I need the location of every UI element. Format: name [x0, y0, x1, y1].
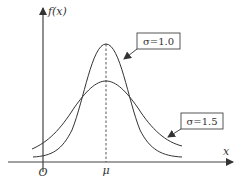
label-sigma-1-0: σ=1.0	[143, 36, 174, 47]
normal-distribution-diagram: σ=1.0 σ=1.5 f(x) μ O x	[0, 0, 240, 183]
label-sigma-1-5: σ=1.5	[186, 116, 217, 127]
pointer-arrow-sigma-1-5	[168, 129, 181, 137]
pointer-arrow-sigma-1-0	[124, 49, 137, 59]
origin-label: O	[38, 166, 47, 179]
curve-sigma-1-0	[33, 44, 182, 157]
y-axis-label: f(x)	[47, 5, 67, 18]
mean-label: μ	[102, 164, 109, 177]
x-axis-label: x	[223, 145, 230, 158]
curve-sigma-1-5	[32, 81, 182, 149]
